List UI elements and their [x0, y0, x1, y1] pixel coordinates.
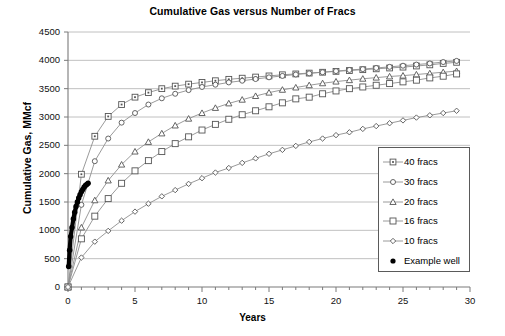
marker-circle [186, 88, 191, 93]
marker-circle [200, 84, 205, 89]
marker-circle [441, 60, 446, 65]
marker-square [387, 81, 393, 87]
marker-square [105, 196, 111, 202]
marker-circle [454, 58, 459, 63]
marker-circle [320, 70, 325, 75]
marker-filled-circle [67, 247, 72, 252]
x-tick-label: 30 [455, 295, 485, 306]
marker-square [390, 218, 396, 224]
y-tick-label: 2000 [22, 168, 60, 179]
legend-item-example-well[interactable]: Example well [382, 251, 470, 271]
y-tick-label: 2500 [22, 139, 60, 150]
marker-square [413, 77, 419, 83]
x-axis-title: Years [0, 312, 505, 323]
marker-square [172, 141, 178, 147]
marker-circle [360, 67, 365, 72]
legend-marker-diamond-icon [382, 234, 404, 248]
marker-circle [347, 67, 352, 72]
marker-circle [401, 63, 406, 68]
marker-circle [226, 80, 231, 85]
marker-square-dot-center [81, 173, 83, 175]
marker-square [440, 73, 446, 79]
chart-title: Cumulative Gas versus Number of Fracs [0, 5, 505, 17]
marker-circle [267, 75, 272, 80]
marker-square [333, 88, 339, 94]
x-tick-label: 25 [388, 295, 418, 306]
marker-filled-circle [390, 258, 395, 263]
legend-label: 16 fracs [404, 214, 438, 228]
marker-circle [387, 64, 392, 69]
x-tick-label: 0 [53, 295, 83, 306]
legend-item-16-fracs[interactable]: 16 fracs [382, 211, 470, 231]
legend-marker-triangle-icon [382, 195, 404, 209]
marker-square [266, 104, 272, 110]
legend-label: 30 fracs [404, 175, 438, 189]
marker-square [320, 91, 326, 97]
legend-label: 40 fracs [404, 155, 438, 169]
marker-circle [334, 69, 339, 74]
marker-square [306, 94, 312, 100]
legend-marker-square-icon [382, 214, 404, 228]
marker-circle [240, 78, 245, 83]
marker-circle [119, 120, 124, 125]
marker-square [360, 84, 366, 90]
marker-filled-circle [85, 181, 90, 186]
marker-square [400, 79, 406, 85]
marker-square [92, 213, 98, 219]
marker-square [78, 236, 84, 242]
marker-square-dot-center [161, 88, 163, 90]
marker-square-dot-center [94, 135, 96, 137]
marker-square-dot-center [174, 85, 176, 87]
chart-figure: Cumulative Gas versus Number of Fracs Cu… [0, 0, 505, 336]
marker-square [373, 82, 379, 88]
marker-square [454, 71, 460, 77]
marker-square [293, 96, 299, 102]
y-tick-label: 3500 [22, 83, 60, 94]
y-tick-label: 0 [22, 281, 60, 292]
legend-item-10-fracs[interactable]: 10 fracs [382, 231, 470, 251]
marker-square [159, 149, 165, 155]
marker-square [132, 168, 138, 174]
marker-square [119, 180, 125, 186]
marker-circle [133, 111, 138, 116]
legend-item-40-fracs[interactable]: 40 fracs [382, 152, 470, 172]
legend-item-30-fracs[interactable]: 30 fracs [382, 172, 470, 192]
marker-square [145, 158, 151, 164]
legend-item-20-fracs[interactable]: 20 fracs [382, 192, 470, 212]
y-tick-label: 4000 [22, 54, 60, 65]
marker-filled-circle [68, 234, 73, 239]
marker-filled-circle [71, 216, 76, 221]
legend-label: Example well [404, 254, 460, 268]
x-tick-label: 5 [120, 295, 150, 306]
marker-circle [146, 102, 151, 107]
legend-marker-circle-icon [382, 175, 404, 189]
marker-square-dot-center [188, 83, 190, 85]
marker-square-dot-center [392, 161, 394, 163]
x-axis-ticks [68, 287, 470, 292]
marker-square-dot-center [201, 82, 203, 84]
marker-circle [374, 65, 379, 70]
marker-square-dot-center [107, 116, 109, 118]
x-tick-label: 15 [254, 295, 284, 306]
y-tick-label: 3000 [22, 111, 60, 122]
marker-circle [213, 82, 218, 87]
y-tick-label: 1500 [22, 196, 60, 207]
x-tick-label: 20 [321, 295, 351, 306]
marker-square [212, 121, 218, 127]
marker-square-dot-center [215, 80, 217, 82]
marker-circle [92, 159, 97, 164]
marker-circle [307, 71, 312, 76]
marker-square [279, 100, 285, 106]
y-tick-label: 500 [22, 253, 60, 264]
marker-circle [414, 62, 419, 67]
marker-circle [427, 61, 432, 66]
marker-square [226, 116, 232, 122]
marker-filled-circle [72, 209, 77, 214]
y-tick-label: 4500 [22, 26, 60, 37]
legend-label: 20 fracs [404, 195, 438, 209]
marker-diamond [390, 238, 395, 243]
marker-circle [293, 72, 298, 77]
marker-square-dot-center [121, 104, 123, 106]
marker-square [253, 108, 259, 114]
marker-circle [280, 73, 285, 78]
